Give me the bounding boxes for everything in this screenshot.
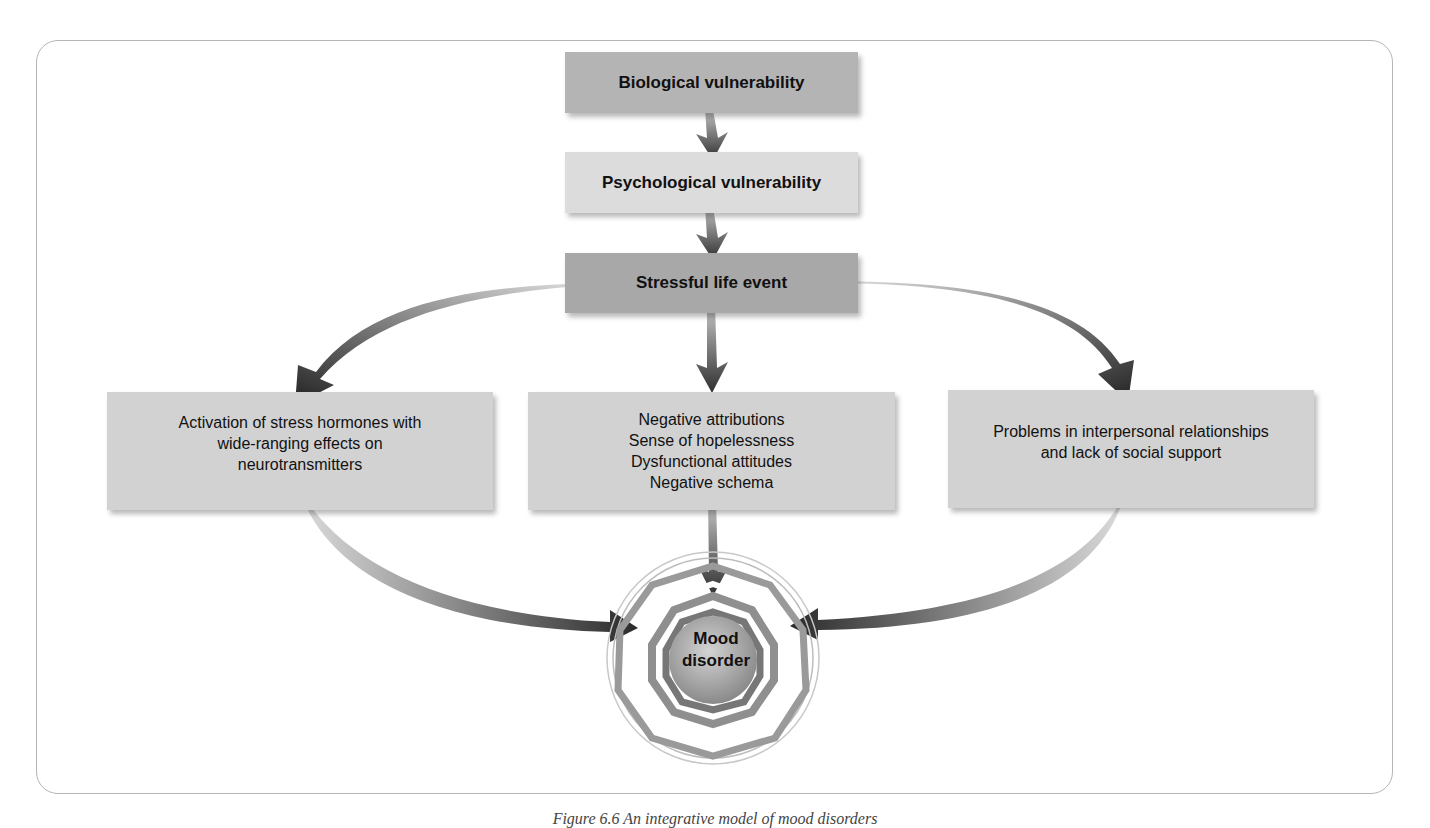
node-label: Biological vulnerability <box>618 73 804 93</box>
stress-hormones-node: Activation of stress hormones with wide-… <box>107 392 493 510</box>
node-line: disorder <box>672 650 760 672</box>
mood-disorder-node: Mood disorder <box>672 628 760 672</box>
psychological-vulnerability-node: Psychological vulnerability <box>565 152 858 213</box>
node-line: Negative schema <box>650 472 774 493</box>
node-line: Activation of stress hormones with <box>179 412 422 433</box>
arrow-left-to-mood <box>300 490 638 642</box>
node-label: Psychological vulnerability <box>602 173 821 193</box>
arrow-stress-to-right <box>832 281 1134 402</box>
arrow-stress-to-middle <box>696 305 728 393</box>
node-line: Problems in interpersonal relationships <box>993 421 1269 442</box>
node-line: Dysfunctional attitudes <box>631 451 792 472</box>
node-line: Negative attributions <box>639 409 785 430</box>
figure-caption: Figure 6.6 An integrative model of mood … <box>0 810 1430 828</box>
arrow-psych-to-stress <box>696 205 728 260</box>
arrow-stress-to-left <box>295 283 595 405</box>
interpersonal-problems-node: Problems in interpersonal relationships … <box>948 390 1314 508</box>
stressful-life-event-node: Stressful life event <box>565 253 858 313</box>
node-line: Mood <box>672 628 760 650</box>
node-line: wide-ranging effects on <box>217 433 382 454</box>
cognitive-factors-node: Negative attributions Sense of hopelessn… <box>528 392 895 510</box>
arrow-right-to-mood <box>790 492 1125 640</box>
node-line: neurotransmitters <box>238 454 363 475</box>
node-line: Sense of hopelessness <box>629 430 794 451</box>
node-label: Stressful life event <box>636 273 787 293</box>
biological-vulnerability-node: Biological vulnerability <box>565 52 858 113</box>
node-line: and lack of social support <box>1041 442 1222 463</box>
